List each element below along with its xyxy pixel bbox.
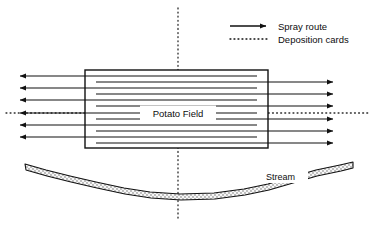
legend-label-spray-route: Spray route	[278, 21, 327, 32]
potato-field-label: Potato Field	[153, 108, 204, 119]
stream-label: Stream	[266, 172, 295, 182]
legend-label-deposition-cards: Deposition cards	[278, 34, 349, 45]
diagram-root: Spray route Deposition cards	[0, 0, 376, 225]
spray-drift-diagram: Spray route Deposition cards	[0, 0, 376, 225]
